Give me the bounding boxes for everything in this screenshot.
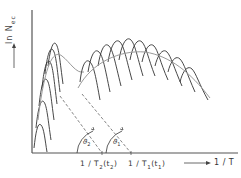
left-envelope (38, 54, 84, 120)
tick-mid: (t (151, 159, 158, 168)
y-axis-label-main: ln N (5, 24, 14, 44)
x-tick-label-1: 1 / T1(t1) (128, 159, 165, 170)
tangent-line-2 (60, 96, 102, 153)
angle-sub: 2 (87, 141, 90, 147)
right-envelope (78, 52, 210, 98)
x-tick-label-2: 1 / T2(t2) (80, 159, 117, 170)
x-axis-label: 1 / T (214, 158, 234, 167)
y-axis-label-sub: ec (9, 15, 16, 24)
y-axis-label: ln Nec (5, 15, 16, 44)
tick-end: ) (162, 159, 165, 168)
tick-main: 1 / T (80, 159, 99, 168)
angle-label-2: ϑ2 (83, 138, 91, 147)
angle-sub: 1 (117, 141, 120, 147)
angle-arc-2-arrowhead (91, 127, 94, 130)
diagram-canvas (0, 0, 241, 178)
right-curve-family (80, 39, 208, 100)
right-arrow-icon (206, 161, 211, 165)
tick-main: 1 / T (128, 159, 147, 168)
tick-mid: (t (103, 159, 110, 168)
angle-label-1: ϑ1 (113, 138, 121, 147)
angle-arc-1-arrowhead (120, 127, 123, 130)
left-curve-family (34, 43, 63, 152)
tick-end: ) (114, 159, 117, 168)
